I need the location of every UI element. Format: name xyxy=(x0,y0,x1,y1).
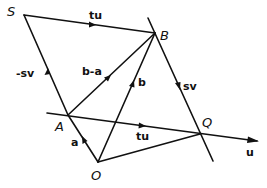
label-vec-BQ: sv xyxy=(183,80,198,93)
line-u xyxy=(47,113,257,141)
label-vec-OA: a xyxy=(71,136,78,149)
label-vec-AB: b-a xyxy=(82,65,102,78)
segment-AS xyxy=(24,15,68,115)
vector-diagram: S B A O Q tu -sv b-a b sv tu a u xyxy=(0,0,267,188)
label-Q: Q xyxy=(202,115,212,130)
arrow-AQ xyxy=(139,123,147,129)
label-O: O xyxy=(91,168,101,183)
label-A: A xyxy=(54,119,64,134)
label-vec-SB: tu xyxy=(89,9,102,22)
arrow-OB xyxy=(129,80,135,88)
label-vec-u: u xyxy=(246,146,254,159)
label-S: S xyxy=(7,4,15,19)
label-B: B xyxy=(160,28,169,43)
label-vec-AQ: tu xyxy=(136,130,149,143)
label-vec-OB: b xyxy=(138,76,146,89)
label-vec-AS: -sv xyxy=(16,67,35,80)
arrow-BQ xyxy=(175,82,181,90)
arrow-SB xyxy=(89,22,96,28)
arrow-u xyxy=(247,137,259,144)
